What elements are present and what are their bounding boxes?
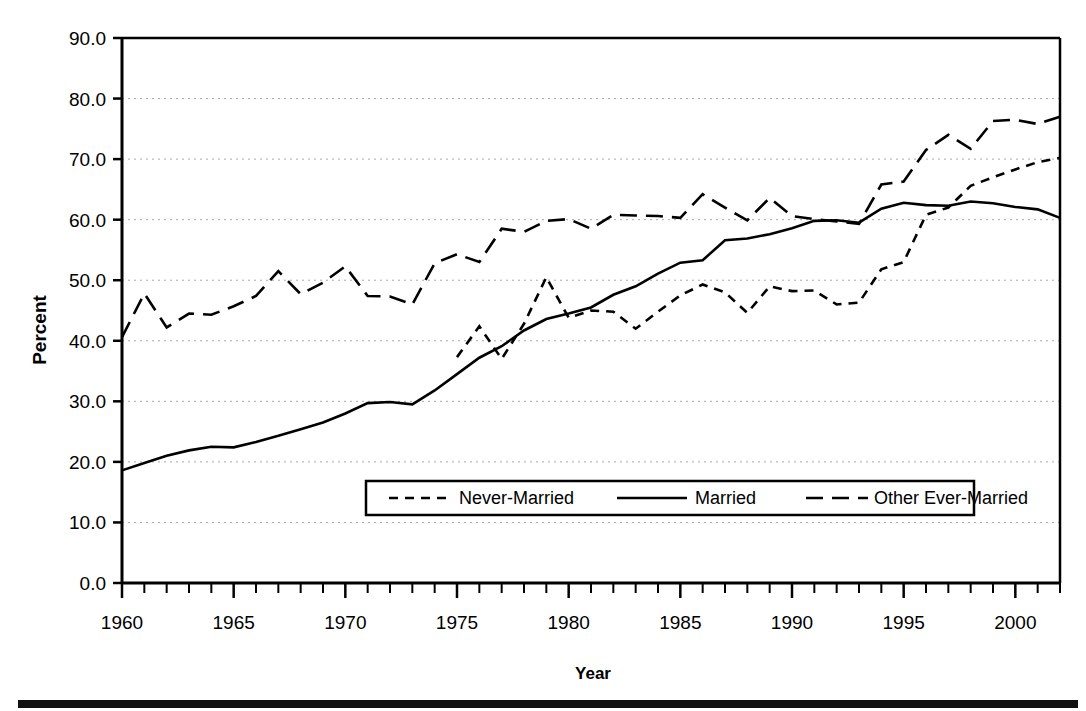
x-tick-label: 1965: [213, 612, 255, 633]
x-tick-label: 1985: [659, 612, 701, 633]
x-tick-label: 1980: [548, 612, 590, 633]
y-tick-label: 80.0: [69, 89, 106, 110]
chart-legend[interactable]: Never-MarriedMarriedOther Ever-Married: [366, 481, 1028, 515]
x-tick-label: 2000: [994, 612, 1036, 633]
legend-label-never-married[interactable]: Never-Married: [459, 488, 574, 508]
chart-background: [0, 0, 1086, 711]
y-tick-label: 40.0: [69, 331, 106, 352]
line-chart: 0.010.020.030.040.050.060.070.080.090.0 …: [0, 0, 1086, 711]
y-tick-label: 10.0: [69, 512, 106, 533]
x-tick-labels: 196019651970197519801985199019952000: [101, 612, 1037, 633]
y-axis-label: Percent: [29, 294, 50, 364]
y-tick-label: 20.0: [69, 452, 106, 473]
x-tick-label: 1990: [771, 612, 813, 633]
footer-bar: [18, 700, 1078, 708]
x-tick-label: 1970: [324, 612, 366, 633]
y-tick-label: 30.0: [69, 391, 106, 412]
y-tick-label: 70.0: [69, 149, 106, 170]
legend-items: Never-MarriedMarriedOther Ever-Married: [389, 488, 1028, 508]
x-axis-label: Year: [575, 664, 611, 683]
y-tick-label: 90.0: [69, 28, 106, 49]
y-tick-label: 60.0: [69, 210, 106, 231]
y-tick-label: 0.0: [80, 573, 106, 594]
legend-label-married[interactable]: Married: [695, 488, 756, 508]
x-tick-label: 1995: [883, 612, 925, 633]
chart-figure: 0.010.020.030.040.050.060.070.080.090.0 …: [0, 0, 1086, 711]
x-tick-label: 1975: [436, 612, 478, 633]
legend-label-other-ever-married[interactable]: Other Ever-Married: [874, 488, 1028, 508]
x-tick-label: 1960: [101, 612, 143, 633]
y-tick-label: 50.0: [69, 270, 106, 291]
